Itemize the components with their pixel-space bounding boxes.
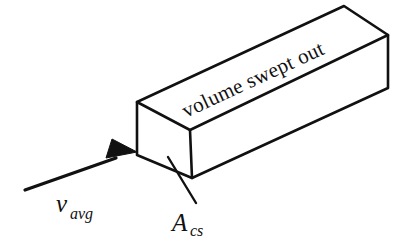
figure-container: volume swept out v avg A cs [0,0,405,237]
area-symbol-label: A [170,209,188,236]
area-subscript-label: cs [190,222,203,237]
area-label-group: A cs [170,209,203,237]
velocity-arrow-head-icon [106,139,137,158]
swept-volume-diagram: volume swept out v avg A cs [0,0,405,237]
velocity-arrow-shaft [25,158,116,190]
velocity-label-group: v avg [56,190,93,223]
velocity-symbol-label: v [56,190,68,217]
velocity-subscript-label: avg [70,205,93,223]
